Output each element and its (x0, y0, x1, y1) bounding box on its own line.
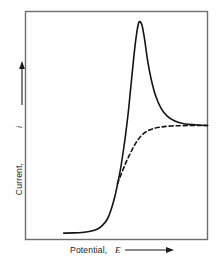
x-axis-symbol: E (114, 245, 121, 255)
figure-panel: Current, i Potential, E (0, 0, 224, 262)
figure-background (0, 0, 224, 262)
y-axis-label: Current, (14, 163, 24, 195)
x-axis-label: Potential, (70, 245, 107, 255)
current-potential-plot: Current, i Potential, E (0, 0, 224, 262)
